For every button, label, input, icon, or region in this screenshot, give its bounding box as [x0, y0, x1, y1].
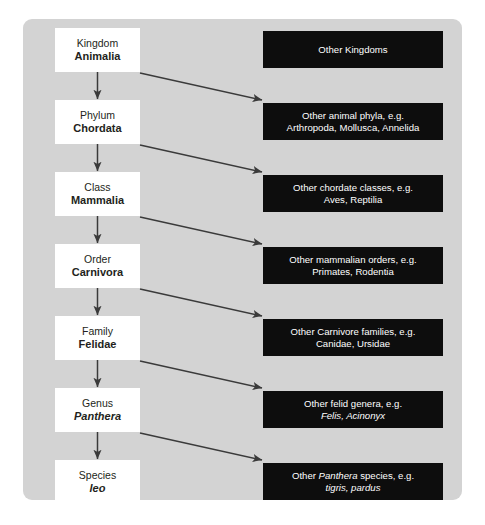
other-line-1: Other felid genera, e.g.: [304, 398, 402, 410]
other-line-2: Primates, Rodentia: [312, 266, 394, 278]
rank-box-phylum[interactable]: Phylum Chordata: [55, 100, 140, 144]
rank-label: Order: [84, 253, 111, 265]
taxon-label: Felidae: [79, 338, 117, 351]
rank-label: Genus: [82, 397, 113, 409]
other-line-2: Aves, Reptilia: [324, 194, 382, 206]
other-line-1: Other chordate classes, e.g.: [293, 182, 413, 194]
rank-label: Class: [84, 181, 110, 193]
taxon-label: Chordata: [73, 122, 121, 135]
other-line-2: Felis, Acinonyx: [321, 410, 385, 422]
rank-box-order[interactable]: Order Carnivora: [55, 244, 140, 288]
other-line-2: tigris, pardus: [326, 482, 381, 494]
other-line-1: Other Carnivore families, e.g.: [291, 326, 416, 338]
rank-label: Species: [79, 469, 116, 481]
other-box-orders[interactable]: Other mammalian orders, e.g. Primates, R…: [263, 247, 443, 284]
rank-label: Kingdom: [77, 37, 118, 49]
other-line-1: Other animal phyla, e.g.: [302, 110, 404, 122]
rank-box-class[interactable]: Class Mammalia: [55, 172, 140, 216]
rank-label: Phylum: [80, 109, 115, 121]
rank-box-family[interactable]: Family Felidae: [55, 316, 140, 360]
taxon-label: Panthera: [74, 410, 121, 423]
taxonomy-diagram: Kingdom Animalia Phylum Chordata Class M…: [0, 0, 485, 525]
rank-label: Family: [82, 325, 113, 337]
other-line-1: Other Kingdoms: [318, 44, 387, 56]
other-box-genera[interactable]: Other felid genera, e.g. Felis, Acinonyx: [263, 391, 443, 428]
other-box-species[interactable]: Other Panthera species, e.g. tigris, par…: [263, 463, 443, 500]
taxon-label: Animalia: [75, 50, 121, 63]
other-box-phyla[interactable]: Other animal phyla, e.g. Arthropoda, Mol…: [263, 103, 443, 140]
rank-box-kingdom[interactable]: Kingdom Animalia: [55, 28, 140, 72]
taxon-label: Mammalia: [71, 194, 124, 207]
rank-box-species[interactable]: Species leo: [55, 460, 140, 504]
taxon-label: leo: [90, 482, 106, 495]
other-line-1: Other mammalian orders, e.g.: [289, 254, 416, 266]
other-box-kingdoms[interactable]: Other Kingdoms: [263, 31, 443, 68]
other-line-1: Other Panthera species, e.g.: [292, 470, 414, 482]
other-box-families[interactable]: Other Carnivore families, e.g. Canidae, …: [263, 319, 443, 356]
other-line-2: Arthropoda, Mollusca, Annelida: [287, 122, 420, 134]
other-box-classes[interactable]: Other chordate classes, e.g. Aves, Repti…: [263, 175, 443, 212]
rank-box-genus[interactable]: Genus Panthera: [55, 388, 140, 432]
other-line-2: Canidae, Ursidae: [316, 338, 390, 350]
taxon-label: Carnivora: [72, 266, 123, 279]
